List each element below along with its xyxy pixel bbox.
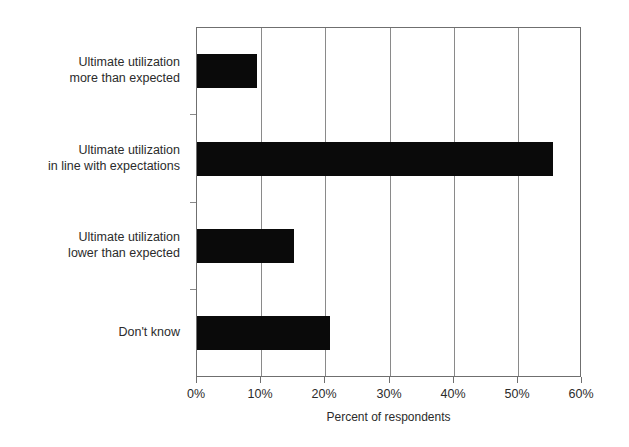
x-axis-tick-label-10: 10%	[247, 386, 272, 402]
x-axis-tick-60	[581, 377, 582, 383]
x-axis-tick-10	[260, 377, 261, 383]
plot-area	[196, 27, 581, 377]
bar-1	[197, 142, 553, 176]
x-axis-tick-40	[453, 377, 454, 383]
x-axis-ticks	[196, 377, 581, 383]
x-axis-tick-30	[389, 377, 390, 383]
x-axis-tick-labels: 0%10%20%30%40%50%60%	[0, 386, 629, 404]
x-axis-tick-label-50: 50%	[504, 386, 529, 402]
x-axis-tick-label-30: 30%	[376, 386, 401, 402]
bar-2	[197, 229, 294, 263]
x-axis-title: Percent of respondents	[196, 410, 581, 424]
y-axis-category-labels: Ultimate utilization more than expected …	[0, 27, 188, 377]
bar-0	[197, 54, 257, 88]
bar-chart-figure: Ultimate utilization more than expected …	[0, 0, 629, 447]
bar-3	[197, 316, 330, 350]
y-axis-label-0: Ultimate utilization more than expected	[0, 54, 180, 86]
x-axis-tick-label-40: 40%	[440, 386, 465, 402]
x-axis-tick-0	[196, 377, 197, 383]
x-axis-tick-label-60: 60%	[568, 386, 593, 402]
y-axis-label-2: Ultimate utilization lower than expected	[0, 229, 180, 261]
bar-row-1	[197, 142, 580, 176]
bar-row-0	[197, 54, 580, 88]
x-axis-tick-label-20: 20%	[311, 386, 336, 402]
bar-row-3	[197, 316, 580, 350]
x-axis-tick-label-0: 0%	[187, 386, 205, 402]
y-axis-label-3: Don't know	[0, 324, 180, 340]
bar-row-2	[197, 229, 580, 263]
x-axis-tick-50	[517, 377, 518, 383]
x-axis-tick-20	[324, 377, 325, 383]
y-axis-label-1: Ultimate utilization in line with expect…	[0, 142, 180, 174]
